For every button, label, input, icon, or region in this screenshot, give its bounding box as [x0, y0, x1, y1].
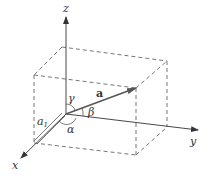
- a1-subscript: 1: [44, 121, 48, 129]
- beta-arc: [82, 108, 83, 116]
- axes: [21, 17, 198, 158]
- a1-label: a1: [37, 115, 48, 129]
- vector-a-label: a: [96, 87, 103, 100]
- beta-label: β: [87, 106, 94, 119]
- y-axis: [66, 114, 198, 130]
- diagram-canvas: z y x a γ β α a1: [0, 0, 210, 181]
- gamma-label: γ: [68, 92, 75, 105]
- alpha-label: α: [67, 123, 75, 136]
- z-axis-label: z: [62, 2, 69, 15]
- y-axis-label: y: [189, 135, 197, 148]
- x-axis-label: x: [12, 159, 19, 172]
